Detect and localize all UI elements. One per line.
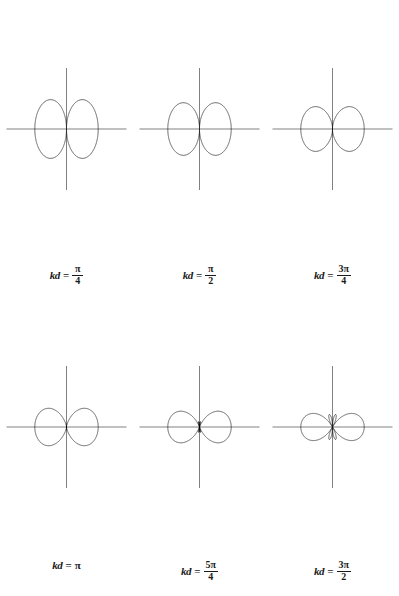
plot-label-equals: = [65, 560, 73, 571]
figure-container: kd=π4 kd=π2 kd=3π4 k [0, 0, 399, 596]
plot-label-prefix: kd [50, 270, 60, 281]
polar-plot-kd-pi [0, 298, 133, 556]
plot-label-fraction: 3π2 [337, 560, 351, 583]
fraction-numerator: π [206, 264, 215, 275]
plot-label-equals: = [326, 270, 334, 281]
fraction-denominator: 4 [206, 572, 215, 583]
fraction-denominator: 4 [339, 276, 348, 287]
plot-cell-6: kd=3π2 [266, 298, 399, 596]
plot-label-2: kd=π2 [133, 264, 266, 287]
plot-label-3: kd=3π4 [266, 264, 399, 287]
plot-label-equals: = [195, 270, 203, 281]
plot-label-equals: = [193, 566, 201, 577]
plot-label-prefix: kd [314, 270, 324, 281]
plot-label-prefix: kd [314, 566, 324, 577]
plot-label-prefix: kd [183, 270, 193, 281]
polar-plot-kd-pi-over-2 [133, 0, 266, 258]
plot-cell-4: kd=π [0, 298, 133, 596]
plot-grid: kd=π4 kd=π2 kd=3π4 k [0, 0, 399, 596]
fraction-numerator: 5π [204, 560, 218, 571]
polar-plot-kd-5pi-over-4 [133, 298, 266, 556]
plot-label-fraction: π4 [72, 264, 83, 287]
plot-label-4: kd=π [0, 560, 133, 571]
fraction-denominator: 4 [73, 276, 82, 287]
plot-label-equals: = [326, 566, 334, 577]
plot-label-fraction: π2 [205, 264, 216, 287]
fraction-numerator: 3π [337, 264, 351, 275]
plot-cell-3: kd=3π4 [266, 0, 399, 298]
plot-label-fraction: 5π4 [204, 560, 218, 583]
plot-label-5: kd=5π4 [133, 560, 266, 583]
fraction-numerator: π [73, 264, 82, 275]
fraction-denominator: 2 [206, 276, 215, 287]
plot-cell-5: kd=5π4 [133, 298, 266, 596]
plot-label-prefix: kd [181, 566, 191, 577]
fraction-denominator: 2 [339, 572, 348, 583]
plot-cell-1: kd=π4 [0, 0, 133, 298]
polar-plot-kd-3pi-over-4 [266, 0, 399, 258]
polar-plot-kd-pi-over-4 [0, 0, 133, 258]
plot-label-equals: = [62, 270, 70, 281]
plot-label-prefix: kd [52, 560, 62, 571]
plot-label-symbol: π [75, 560, 81, 571]
plot-label-6: kd=3π2 [266, 560, 399, 583]
polar-plot-kd-3pi-over-2 [266, 298, 399, 556]
plot-label-1: kd=π4 [0, 264, 133, 287]
plot-cell-2: kd=π2 [133, 0, 266, 298]
fraction-numerator: 3π [337, 560, 351, 571]
plot-label-fraction: 3π4 [337, 264, 351, 287]
